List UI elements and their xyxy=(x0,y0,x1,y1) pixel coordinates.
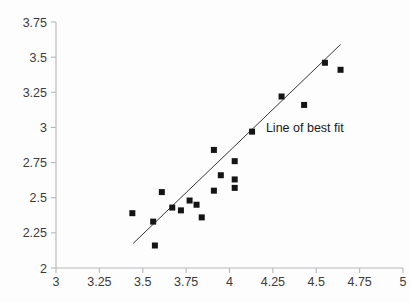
y-tick-label: 2 xyxy=(40,262,47,276)
y-tick-label: 2.25 xyxy=(23,226,47,240)
data-point xyxy=(159,189,165,195)
data-point xyxy=(338,67,344,73)
x-tick-label: 3.75 xyxy=(174,275,198,289)
data-point xyxy=(150,219,156,225)
data-point xyxy=(169,205,175,211)
data-point xyxy=(232,158,238,164)
y-axis-tick-labels: 22.252.52.7533.253.53.75 xyxy=(23,16,47,276)
y-tick-label: 3.5 xyxy=(30,51,47,65)
x-tick-label: 3.5 xyxy=(134,275,151,289)
data-point xyxy=(199,214,205,220)
data-point xyxy=(194,202,200,208)
y-axis-tick-marks xyxy=(51,22,56,268)
x-tick-label: 4.5 xyxy=(308,275,325,289)
x-axis-tick-marks xyxy=(56,268,403,273)
scatter-chart: 22.252.52.7533.253.53.75 33.253.53.7544.… xyxy=(0,0,410,302)
line-of-best-fit-label: Line of best fit xyxy=(266,121,344,135)
x-tick-label: 4.75 xyxy=(347,275,371,289)
data-point xyxy=(279,94,285,100)
data-point xyxy=(301,102,307,108)
y-tick-label: 3 xyxy=(40,121,47,135)
data-point xyxy=(322,60,328,66)
data-point xyxy=(152,243,158,249)
data-point xyxy=(211,147,217,153)
y-tick-label: 2.75 xyxy=(23,156,47,170)
y-tick-label: 3.25 xyxy=(23,86,47,100)
x-tick-label: 4 xyxy=(226,275,233,289)
data-point xyxy=(232,176,238,182)
x-axis-tick-labels: 33.253.53.7544.254.54.755 xyxy=(53,275,407,289)
x-tick-label: 3 xyxy=(53,275,60,289)
y-tick-label: 2.5 xyxy=(30,191,47,205)
x-tick-label: 3.25 xyxy=(87,275,111,289)
data-point xyxy=(218,172,224,178)
chart-canvas: 22.252.52.7533.253.53.75 33.253.53.7544.… xyxy=(0,0,410,302)
data-point xyxy=(129,210,135,216)
scatter-points xyxy=(129,60,343,249)
y-tick-label: 3.75 xyxy=(23,16,47,30)
x-tick-label: 4.25 xyxy=(261,275,285,289)
data-point xyxy=(187,198,193,204)
line-of-best-fit xyxy=(133,44,340,243)
data-point xyxy=(232,185,238,191)
data-point xyxy=(211,188,217,194)
data-point xyxy=(249,129,255,135)
x-tick-label: 5 xyxy=(400,275,407,289)
data-point xyxy=(178,207,184,213)
